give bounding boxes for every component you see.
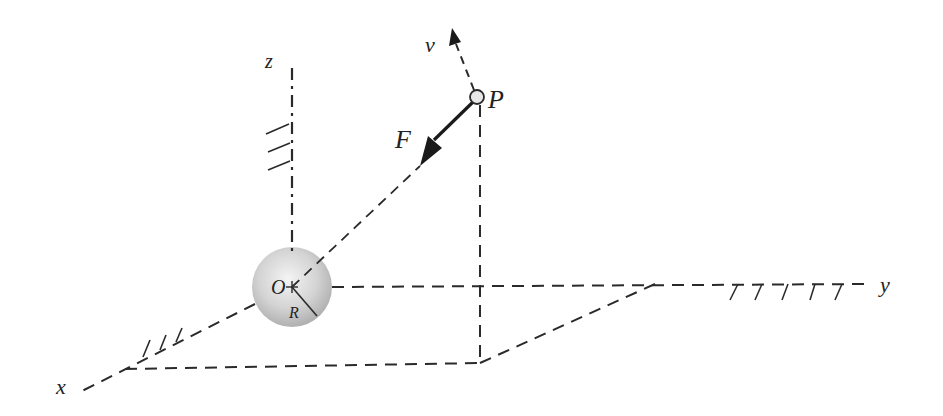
velocity-arrow-head (449, 28, 461, 46)
o-to-p-line (292, 166, 420, 287)
z-axis-hatch (266, 124, 290, 170)
x-axis-hatch (143, 328, 182, 357)
label-f: F (394, 125, 412, 154)
x-axis (80, 304, 255, 392)
force-arrow-head (420, 136, 442, 166)
label-z: z (264, 50, 273, 72)
y-axis (332, 284, 870, 287)
label-y: y (878, 272, 890, 297)
label-r: R (288, 304, 299, 321)
ground-projection (125, 284, 655, 369)
velocity-line (456, 44, 474, 90)
label-x: x (55, 374, 66, 399)
label-p: P (487, 85, 504, 114)
label-v: v (425, 32, 435, 57)
force-arrow-shaft (434, 102, 473, 140)
label-o: O (271, 276, 285, 298)
mechanics-diagram: z v P F O R y x (0, 0, 943, 416)
y-axis-hatch (730, 284, 842, 300)
point-p (470, 90, 484, 104)
